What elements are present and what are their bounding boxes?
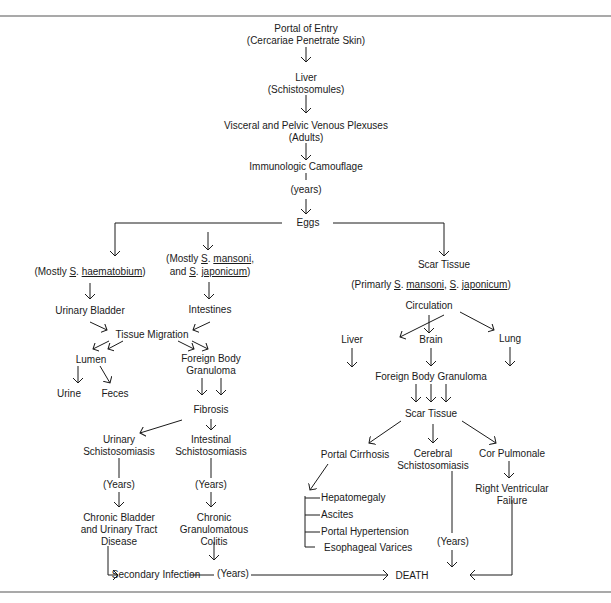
node-chronic-bladder-1: Chronic Bladder — [83, 512, 155, 524]
node-lung: Lung — [499, 333, 521, 345]
node-urinary-schisto-2: Schistosomiasis — [83, 446, 155, 458]
node-cerebral-2: Schistosomiasis — [397, 460, 469, 472]
node-liver-right: Liver — [341, 334, 363, 346]
node-portal-of-entry: Portal of Entry — [274, 23, 337, 35]
schistosomiasis-flowchart: Portal of Entry (Cercariae Penetrate Ski… — [0, 0, 611, 603]
node-feces: Feces — [101, 388, 128, 400]
node-rv-failure-2: Failure — [497, 495, 528, 507]
cirrhosis-item-portal-hypertension: Portal Hypertension — [321, 526, 409, 538]
node-urine: Urine — [57, 388, 81, 400]
node-brain: Brain — [419, 334, 442, 346]
node-foreign-body-granuloma-left-1: Foreign Body — [181, 353, 240, 365]
node-chronic-bladder-2: and Urinary Tract — [81, 524, 158, 536]
node-plexuses: Visceral and Pelvic Venous Plexuses — [224, 120, 388, 132]
node-chronic-colitis-1: Chronic — [197, 512, 231, 524]
node-secondary-infection: Secondary Infection — [112, 569, 200, 581]
cirrhosis-item-esophageal-varices: Esophageal Varices — [324, 542, 412, 554]
cirrhosis-item-hepatomegaly: Hepatomegaly — [321, 492, 385, 504]
node-lumen: Lumen — [76, 354, 107, 366]
node-urinary-bladder: Urinary Bladder — [55, 305, 124, 317]
node-intestines: Intestines — [189, 304, 232, 316]
node-scar-tissue-mid: Scar Tissue — [405, 408, 457, 420]
node-fibrosis: Fibrosis — [193, 404, 228, 416]
label-years-mid: (Years) — [195, 479, 227, 491]
node-scar-tissue-top: Scar Tissue — [418, 259, 470, 271]
node-tissue-migration: Tissue Migration — [116, 329, 189, 341]
node-primarily-species: (Primarly S. mansoni, S. japonicum) — [351, 279, 511, 291]
node-intestinal-schisto-2: Schistosomiasis — [175, 446, 247, 458]
label-years-right: (Years) — [437, 536, 469, 548]
node-chronic-bladder-3: Disease — [101, 536, 137, 548]
node-mansoni-line2: and S. japonicum) — [170, 266, 251, 278]
node-urinary-schisto-1: Urinary — [103, 434, 135, 446]
node-portal-of-entry-sub: (Cercariae Penetrate Skin) — [247, 35, 365, 47]
node-death: DEATH — [395, 570, 428, 582]
node-haematobium: (Mostly S. haematobium) — [34, 266, 145, 278]
node-rv-failure-1: Right Ventricular — [475, 483, 548, 495]
node-mansoni-line1: (Mostly S. mansoni, — [166, 253, 254, 265]
node-plexuses-sub: (Adults) — [289, 132, 323, 144]
node-portal-cirrhosis: Portal Cirrhosis — [321, 449, 389, 461]
node-chronic-colitis-2: Granulomatous — [180, 524, 248, 536]
node-cerebral-1: Cerebral — [414, 448, 452, 460]
label-years-bottom: (Years) — [217, 568, 249, 580]
node-intestinal-schisto-1: Intestinal — [191, 434, 231, 446]
node-foreign-body-granuloma-left-2: Granuloma — [186, 365, 235, 377]
node-circulation: Circulation — [405, 300, 452, 312]
node-cor-pulmonale: Cor Pulmonale — [479, 448, 545, 460]
node-eggs: Eggs — [297, 217, 320, 229]
node-liver-stage-sub: (Schistosomules) — [268, 84, 345, 96]
label-years-left: (Years) — [103, 479, 135, 491]
node-liver-stage: Liver — [295, 72, 317, 84]
node-foreign-body-granuloma-right: Foreign Body Granuloma — [375, 371, 487, 383]
node-immunologic-camouflage: Immunologic Camouflage — [249, 161, 362, 173]
label-years-camouflage: (years) — [290, 184, 321, 196]
node-chronic-colitis-3: Colitis — [200, 536, 227, 548]
cirrhosis-item-ascites: Ascites — [321, 509, 353, 521]
